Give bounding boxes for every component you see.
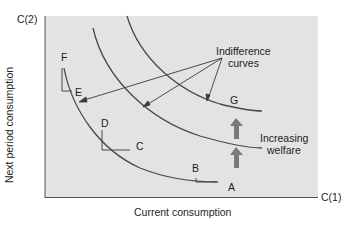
x-axis-end-label: C(1) bbox=[321, 191, 341, 203]
point-B: B bbox=[192, 162, 199, 174]
y-axis-end-label: C(2) bbox=[17, 13, 37, 25]
point-G: G bbox=[230, 94, 238, 106]
indifference-label-line2: curves bbox=[228, 57, 259, 69]
point-E: E bbox=[75, 86, 82, 98]
x-axis-title: Current consumption bbox=[134, 206, 231, 218]
y-axis-title: Next period consumption bbox=[3, 60, 17, 190]
welfare-label-line2: welfare bbox=[267, 144, 301, 156]
indifference-curve-diagram: C(2) Next period consumption C(1) Curren… bbox=[0, 0, 352, 234]
point-F: F bbox=[61, 51, 67, 63]
point-C: C bbox=[136, 140, 144, 152]
diagram-canvas bbox=[0, 0, 352, 234]
plot-panel bbox=[45, 16, 318, 198]
point-D: D bbox=[101, 117, 109, 129]
indifference-label-line1: Indifference bbox=[216, 45, 271, 57]
point-A: A bbox=[228, 181, 235, 193]
welfare-label-line1: Increasing bbox=[260, 132, 308, 144]
